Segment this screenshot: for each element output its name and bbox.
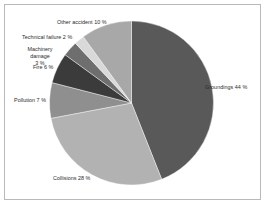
pie-chart-figure: Groundings 44 % Collisions 28 % Pollutio… <box>0 0 265 204</box>
pie-slice-group <box>49 21 213 185</box>
slice-label-machinery-line2: 3 % <box>35 60 44 66</box>
slice-label-machinery-damage: Machinery damage 3 % <box>17 46 63 67</box>
slice-label-other-accident: Other accident 10 % <box>57 19 107 26</box>
slice-label-pollution: Pollution 7 % <box>14 97 46 104</box>
slice-label-groundings: Groundings 44 % <box>205 84 247 91</box>
slice-label-collisions: Collisions 28 % <box>53 175 90 182</box>
slice-label-machinery-line1: Machinery damage <box>27 46 52 59</box>
slice-label-technical-failure: Technical failure 2 % <box>22 34 72 41</box>
